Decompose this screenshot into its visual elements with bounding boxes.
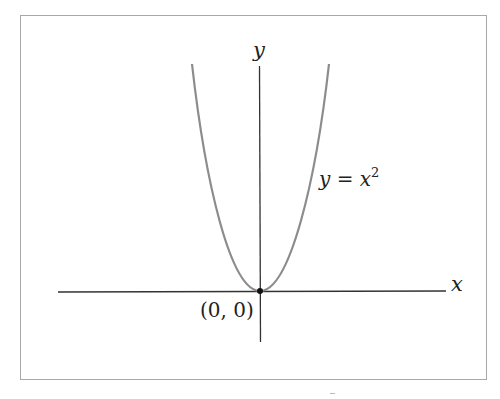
equation-equals: = <box>337 167 354 191</box>
origin-label: (0, 0) <box>200 300 254 320</box>
curve-equation-label: y = x2 <box>319 166 379 189</box>
equation-base: x <box>360 167 371 191</box>
x-axis <box>58 291 446 292</box>
equation-exponent: 2 <box>371 165 379 180</box>
parabola-plot <box>0 0 500 399</box>
y-axis <box>260 66 261 342</box>
equation-lhs: y <box>319 167 330 191</box>
scan-artifact <box>330 393 335 394</box>
y-axis-label: y <box>253 40 265 61</box>
origin-point <box>257 288 263 294</box>
x-axis-label: x <box>451 274 463 295</box>
